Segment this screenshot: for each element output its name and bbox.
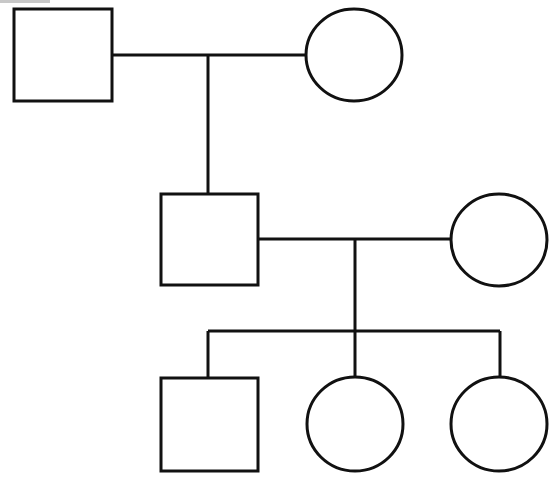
pedigree-diagram — [0, 0, 554, 478]
male-square-I-1 — [14, 9, 112, 101]
male-square-II-1 — [161, 194, 258, 285]
female-circle-III-3 — [451, 377, 547, 471]
male-square-III-1 — [161, 378, 258, 471]
female-circle-III-2 — [307, 377, 403, 471]
female-circle-I-2 — [306, 9, 402, 101]
female-circle-II-2 — [451, 194, 547, 286]
